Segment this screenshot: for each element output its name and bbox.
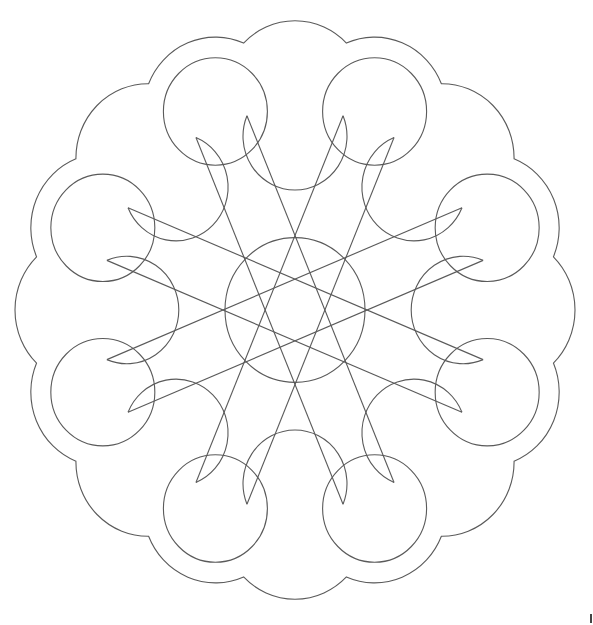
hairpin-loops (107, 116, 483, 505)
outer-circle (435, 174, 539, 281)
rosette-diagram (0, 0, 593, 625)
outer-circle (435, 339, 539, 446)
hairpin-loop (243, 116, 347, 190)
rosette-geometry (15, 21, 575, 599)
outer-circles (51, 58, 539, 562)
hairpin-loop (243, 430, 347, 504)
outer-circle (323, 455, 427, 562)
edge-mark (590, 614, 592, 623)
outer-circle (163, 58, 267, 165)
outer-circle (51, 339, 155, 446)
center-circle (225, 238, 365, 383)
hairpin-loop (128, 138, 228, 241)
outer-circle (323, 58, 427, 165)
hairpin-loop (128, 379, 228, 482)
hairpin-loop (107, 256, 179, 363)
outer-circle (163, 455, 267, 562)
hairpin-loop (411, 256, 483, 363)
star-lines (107, 116, 483, 505)
hairpin-loop (362, 379, 462, 482)
outer-circle (51, 174, 155, 281)
scalloped-border (15, 21, 575, 599)
hairpin-loop (362, 138, 462, 241)
